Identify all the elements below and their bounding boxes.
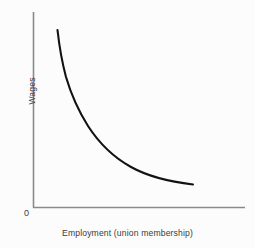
x-axis-label: Employment (union membership)	[0, 228, 255, 238]
chart-plot-area	[0, 0, 255, 248]
labor-demand-curve	[58, 30, 194, 185]
origin-tick-label: 0	[24, 209, 29, 218]
y-axis-label: Wages	[27, 67, 37, 115]
chart-figure: 0 Wages Employment (union membership)	[0, 0, 255, 248]
